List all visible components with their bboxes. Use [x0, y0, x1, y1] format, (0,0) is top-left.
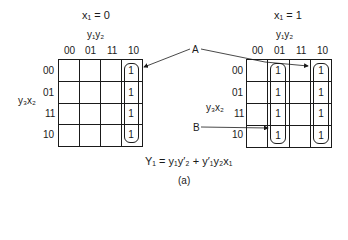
arrow-b: [201, 127, 268, 128]
equation: Y₁ = y₁y′₂ + y′₁y₂x₁: [145, 155, 232, 167]
caption: (a): [178, 175, 190, 186]
arrow-a-right: [201, 49, 308, 66]
arrow-a-left: [144, 49, 190, 67]
